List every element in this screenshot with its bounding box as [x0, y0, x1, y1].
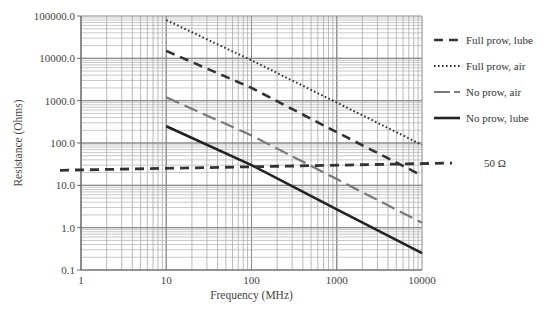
plot-grid	[81, 16, 422, 270]
reference-line-label: 50 Ω	[484, 157, 506, 169]
y-tick-label: 10000.0	[39, 52, 75, 64]
x-axis-label: Frequency (MHz)	[210, 289, 293, 302]
y-tick-label: 10.0	[56, 179, 76, 191]
series-line-full-prow-air	[166, 20, 422, 145]
legend: 50 ΩFull prow, lubeFull prow, airNo prow…	[434, 34, 533, 169]
y-tick-label: 0.1	[61, 264, 75, 276]
legend-label-no-prow-lube: No prow, lube	[466, 112, 529, 124]
x-tick-label: 10000	[408, 274, 436, 286]
y-axis-label: Resistance (Ohms)	[12, 99, 25, 186]
x-tick-label: 1	[78, 274, 84, 286]
reference-line-50-ohm	[60, 163, 452, 170]
legend-label-full-prow-air: Full prow, air	[466, 60, 526, 72]
x-tick-label: 100	[243, 274, 260, 286]
y-tick-label: 1000.0	[45, 95, 76, 107]
y-tick-label: 1.0	[61, 222, 75, 234]
data-lines	[60, 20, 452, 253]
legend-label-no-prow-air: No prow, air	[466, 86, 522, 98]
resistance-vs-frequency-chart: 0.11.010.0100.01000.010000.0100000.01101…	[0, 0, 546, 314]
y-tick-label: 100000.0	[34, 10, 76, 22]
x-tick-label: 1000	[326, 274, 349, 286]
legend-label-full-prow-lube: Full prow, lube	[466, 34, 533, 46]
y-tick-label: 100.0	[50, 137, 75, 149]
x-tick-label: 10	[161, 274, 173, 286]
